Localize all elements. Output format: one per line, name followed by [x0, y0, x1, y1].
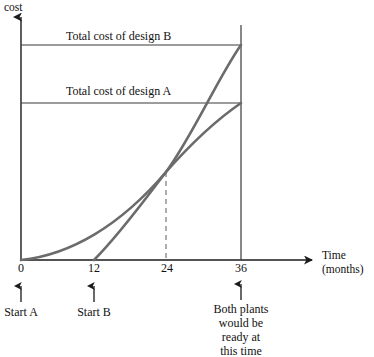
annotation-both-plants-ready: Both plants would be ready at this time: [191, 302, 291, 357]
x-tick-12: 12: [84, 262, 104, 275]
annotation-start-a: Start A: [0, 306, 47, 319]
annotation-both-plants-line2: would be: [191, 316, 291, 330]
annotation-start-b: Start B: [68, 306, 120, 319]
annotation-both-plants-line4: this time: [191, 344, 291, 357]
x-axis-title-line1: Time: [322, 248, 364, 262]
x-axis-title: Time (months): [322, 248, 364, 277]
design-b-series-label: Total cost of design B: [66, 30, 171, 43]
design-a-series-label: Total cost of design A: [66, 85, 171, 98]
x-axis-title-line2: (months): [322, 262, 364, 276]
chart-canvas: [0, 0, 374, 357]
x-tick-36: 36: [231, 262, 251, 275]
y-axis-title: cost: [4, 1, 23, 14]
design-a-cost-curve: [21, 103, 241, 260]
design-b-cost-curve: [94, 45, 241, 260]
annotation-both-plants-line1: Both plants: [191, 302, 291, 316]
x-tick-0: 0: [11, 262, 31, 275]
cost-vs-time-figure: cost Time (months) Total cost of design …: [0, 0, 374, 357]
annotation-both-plants-line3: ready at: [191, 330, 291, 344]
x-tick-24: 24: [157, 262, 177, 275]
